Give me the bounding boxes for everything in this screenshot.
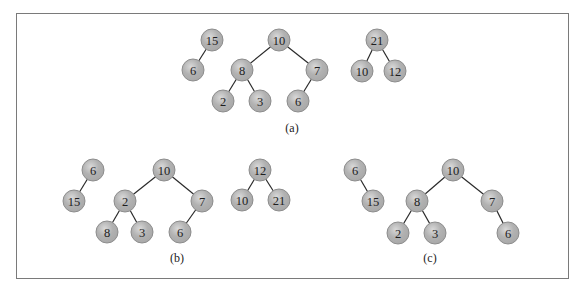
node-label: 6: [295, 95, 301, 109]
node-label: 10: [356, 65, 369, 79]
tree-node: 7: [306, 59, 328, 81]
node-label: 2: [395, 227, 401, 241]
tree-node: 3: [131, 221, 153, 243]
node-label: 6: [505, 227, 511, 241]
tree-node: 6: [82, 159, 104, 181]
edges-layer: [74, 40, 508, 233]
node-label: 8: [104, 226, 110, 240]
node-label: 7: [489, 195, 495, 209]
panel-b: 6151027836121021: [63, 159, 290, 243]
tree-node: 6: [182, 59, 204, 81]
node-label: 10: [273, 34, 286, 48]
node-label: 2: [122, 195, 128, 209]
node-label: 7: [199, 195, 205, 209]
tree-b-2: 1027836: [96, 159, 213, 243]
node-label: 3: [139, 226, 145, 240]
tree-node: 3: [249, 90, 271, 112]
node-label: 3: [432, 227, 438, 241]
tree-node: 10: [268, 29, 290, 51]
tree-node: 10: [231, 189, 253, 211]
tree-node: 10: [153, 159, 175, 181]
tree-node: 8: [231, 59, 253, 81]
tree-node: 21: [268, 189, 290, 211]
tree-node: 2: [114, 190, 136, 212]
panel-c: 6151087236: [344, 159, 519, 244]
tree-node: 7: [481, 190, 503, 212]
node-label: 12: [389, 65, 402, 79]
tree-a-3: 211012: [351, 29, 406, 82]
tree-node: 12: [384, 60, 406, 82]
tree-node: 8: [406, 190, 428, 212]
caption-c: (c): [423, 251, 436, 266]
tree-node: 21: [366, 29, 388, 51]
tree-a-2: 1087236: [212, 29, 328, 112]
node-label: 3: [257, 95, 263, 109]
tree-node: 2: [212, 90, 234, 112]
tree-node: 2: [387, 222, 409, 244]
node-label: 6: [90, 164, 96, 178]
tree-diagram: 1561087236211012615102783612102161510872…: [0, 0, 586, 295]
node-label: 15: [206, 34, 219, 48]
node-label: 6: [177, 226, 183, 240]
node-label: 10: [447, 164, 460, 178]
tree-node: 10: [442, 159, 464, 181]
node-label: 10: [158, 164, 171, 178]
tree-node: 15: [201, 29, 223, 51]
node-label: 2: [220, 95, 226, 109]
node-label: 7: [314, 64, 320, 78]
node-label: 10: [236, 194, 249, 208]
tree-node: 6: [169, 221, 191, 243]
tree-node: 10: [351, 60, 373, 82]
node-label: 15: [68, 195, 81, 209]
tree-node: 7: [191, 190, 213, 212]
panel-a: 1561087236211012: [182, 29, 406, 112]
node-label: 8: [239, 64, 245, 78]
tree-c-2: 1087236: [387, 159, 519, 244]
node-label: 15: [367, 195, 380, 209]
tree-node: 15: [362, 190, 384, 212]
node-label: 6: [190, 64, 196, 78]
tree-b-3: 121021: [231, 159, 290, 211]
node-label: 8: [414, 195, 420, 209]
node-label: 6: [352, 164, 358, 178]
tree-node: 3: [424, 222, 446, 244]
tree-node: 15: [63, 190, 85, 212]
node-label: 12: [254, 164, 267, 178]
caption-b: (b): [170, 251, 184, 266]
node-label: 21: [273, 194, 286, 208]
tree-node: 8: [96, 221, 118, 243]
caption-a: (a): [285, 121, 298, 136]
tree-node: 6: [497, 222, 519, 244]
tree-node: 6: [287, 90, 309, 112]
tree-node: 12: [249, 159, 271, 181]
node-label: 21: [371, 34, 384, 48]
tree-node: 6: [344, 159, 366, 181]
